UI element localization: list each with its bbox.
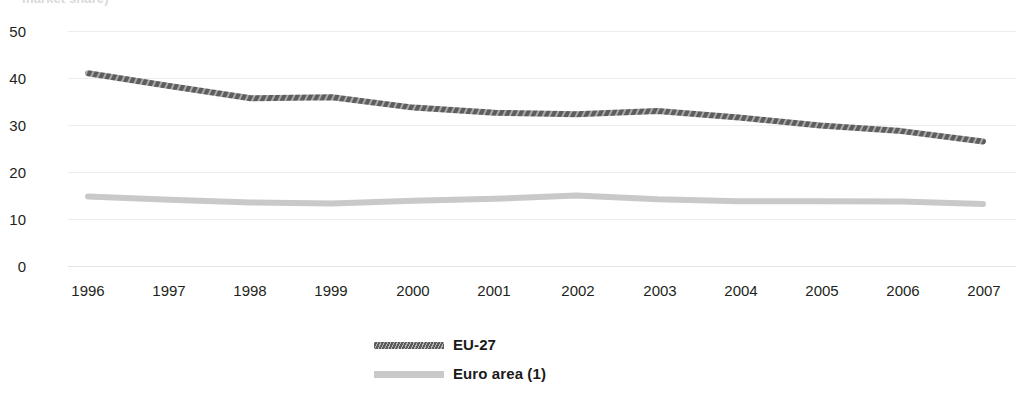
hatched-line-swatch-icon xyxy=(374,342,444,349)
chart-title-fragment: market share) xyxy=(22,0,109,6)
legend-label-wrap-eu27: EU-27 xyxy=(453,336,663,354)
gridline-0 xyxy=(68,266,1016,267)
x-tick-label-2003: 2003 xyxy=(624,283,696,298)
legend-item-eu27[interactable]: EU-27 xyxy=(373,336,663,354)
x-tick-label-1997: 1997 xyxy=(133,283,205,298)
plot-area xyxy=(68,31,1016,266)
gridline-40 xyxy=(68,78,1016,79)
x-tick-label-1998: 1998 xyxy=(214,283,286,298)
y-tick-label-40: 40 xyxy=(0,71,26,86)
legend-swatch-wrap-euro-area xyxy=(373,371,453,378)
gridline-50 xyxy=(68,31,1016,32)
legend-label-euro-area: Euro area (1) xyxy=(453,365,546,382)
x-tick-label-2005: 2005 xyxy=(786,283,858,298)
x-tick-label-2004: 2004 xyxy=(705,283,777,298)
y-tick-label-0: 0 xyxy=(0,259,26,274)
y-tick-label-30: 30 xyxy=(0,118,26,133)
legend-label-wrap-euro-area: Euro area (1) xyxy=(453,365,663,383)
x-tick-label-2000: 2000 xyxy=(377,283,449,298)
x-tick-label-1999: 1999 xyxy=(295,283,367,298)
legend-label-eu27: EU-27 xyxy=(453,336,496,353)
gridline-30 xyxy=(68,125,1016,126)
y-tick-label-10: 10 xyxy=(0,212,26,227)
solid-line-swatch-icon xyxy=(374,371,444,378)
x-tick-label-2007: 2007 xyxy=(948,283,1020,298)
legend-item-euro-area[interactable]: Euro area (1) xyxy=(373,365,663,383)
y-tick-label-20: 20 xyxy=(0,165,26,180)
gridline-20 xyxy=(68,172,1016,173)
x-tick-label-2006: 2006 xyxy=(867,283,939,298)
y-tick-label-50: 50 xyxy=(0,24,26,39)
chart-legend: EU-27 Euro area (1) xyxy=(0,336,1036,383)
line-chart: market share) 50 40 30 20 10 0 1996 1997… xyxy=(0,0,1036,398)
x-tick-label-2001: 2001 xyxy=(458,283,530,298)
x-tick-label-1996: 1996 xyxy=(52,283,124,298)
legend-swatch-wrap-eu27 xyxy=(373,342,453,349)
gridline-10 xyxy=(68,219,1016,220)
x-tick-label-2002: 2002 xyxy=(542,283,614,298)
